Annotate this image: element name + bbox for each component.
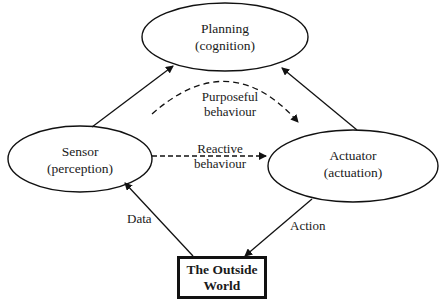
- reactive-behaviour-label: Reactive behaviour: [180, 141, 260, 171]
- purposeful-line2: behaviour: [190, 104, 270, 119]
- actuator-node: Actuator (actuation): [303, 147, 403, 181]
- purposeful-behaviour-label: Purposeful behaviour: [190, 89, 270, 119]
- sensor-node: Sensor (perception): [30, 143, 130, 177]
- purposeful-line1: Purposeful: [190, 89, 270, 104]
- planning-node: Planning (cognition): [175, 20, 275, 54]
- actuator-subtitle: (actuation): [303, 164, 403, 181]
- data-label: Data: [127, 211, 152, 226]
- world-line2: World: [204, 278, 241, 294]
- outside-world-box: The Outside World: [177, 256, 267, 299]
- reactive-line2: behaviour: [180, 156, 260, 171]
- planning-title: Planning: [175, 20, 275, 37]
- world-line1: The Outside: [187, 262, 258, 278]
- action-label: Action: [290, 218, 325, 233]
- reactive-line1: Reactive: [180, 141, 260, 156]
- actuator-to-planning-arrow: [282, 68, 357, 130]
- sensor-to-planning-arrow: [92, 66, 173, 127]
- actuator-title: Actuator: [303, 147, 403, 164]
- planning-subtitle: (cognition): [175, 37, 275, 54]
- sensor-subtitle: (perception): [30, 160, 130, 177]
- sensor-title: Sensor: [30, 143, 130, 160]
